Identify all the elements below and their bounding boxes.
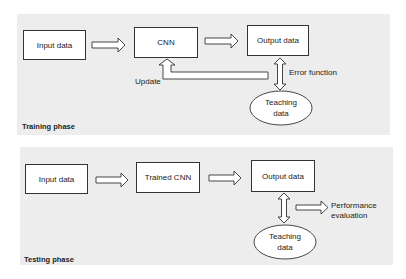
training-teaching-line2: data	[250, 108, 312, 119]
performance-line1: Performance	[331, 201, 377, 211]
performance-evaluation-label: Performance evaluation	[331, 201, 377, 221]
error-double-arrow	[274, 58, 286, 90]
arrow-cnn-to-output	[205, 34, 238, 48]
update-label: Update	[135, 77, 161, 87]
training-input-label: Input data	[37, 41, 73, 50]
training-teaching-line1: Teaching	[250, 97, 312, 108]
training-cnn-box: CNN	[134, 27, 198, 58]
training-cnn-label: CNN	[157, 38, 174, 47]
arrow-input-to-cnn	[92, 38, 125, 52]
training-output-label: Output data	[257, 36, 299, 45]
testing-input-box: Input data	[25, 164, 88, 194]
training-teaching-text: Teaching data	[250, 97, 312, 119]
performance-line2: evaluation	[331, 211, 377, 221]
testing-input-label: Input data	[39, 175, 75, 184]
training-output-box: Output data	[247, 25, 309, 56]
training-phase-label: Training phase	[22, 122, 75, 131]
testing-double-arrow	[278, 193, 290, 223]
performance-arrow	[296, 201, 328, 214]
arrow-trained-cnn-to-output	[209, 171, 241, 185]
testing-trained-cnn-label: Trained CNN	[145, 173, 191, 182]
testing-output-box: Output data	[251, 160, 315, 192]
testing-output-label: Output data	[262, 172, 304, 181]
testing-phase-label: Testing phase	[24, 255, 74, 264]
arrow-input-to-trained-cnn	[96, 173, 128, 187]
testing-trained-cnn-box: Trained CNN	[136, 162, 200, 193]
update-arrow	[159, 59, 268, 79]
testing-teaching-text: Teaching data	[254, 231, 316, 253]
testing-teaching-line1: Teaching	[254, 231, 316, 242]
training-input-box: Input data	[23, 30, 86, 60]
error-function-label: Error function	[289, 68, 337, 78]
testing-teaching-line2: data	[254, 242, 316, 253]
